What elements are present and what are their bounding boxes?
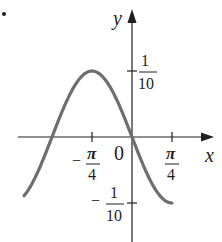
x-tick-pos-denominator: 4 [167, 166, 175, 183]
y-tick-label-neg: − 1 10 [91, 184, 124, 224]
x-tick-neg-numerator: π [87, 144, 97, 163]
minus-sign: − [72, 152, 81, 169]
chart: y x 0 1 10 − 1 10 − π 4 π 4 [0, 0, 222, 242]
y-tick-pos-numerator: 1 [141, 52, 149, 69]
x-axis-label: x [204, 144, 214, 166]
x-tick-pos-numerator: π [166, 144, 176, 163]
x-axis-arrow-icon [201, 133, 214, 142]
y-tick-label-pos: 1 10 [138, 52, 157, 92]
minus-sign: − [91, 192, 100, 209]
x-tick-neg-denominator: 4 [88, 166, 96, 183]
y-axis-arrow-icon [128, 9, 137, 23]
y-tick-pos-denominator: 10 [138, 75, 154, 92]
origin-label: 0 [114, 142, 124, 164]
y-axis-label: y [111, 7, 122, 30]
y-tick-neg-numerator: 1 [110, 184, 118, 201]
figure-label-dot [2, 12, 6, 16]
x-tick-label-neg: − π 4 [72, 144, 100, 183]
y-tick-neg-denominator: 10 [106, 207, 122, 224]
x-tick-label-pos: π 4 [165, 144, 179, 183]
